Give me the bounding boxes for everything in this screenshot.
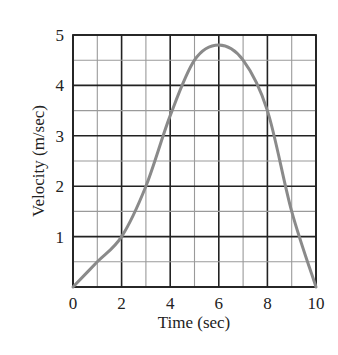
y-tick-label: 2 (56, 177, 65, 196)
y-tick-label: 4 (56, 76, 65, 95)
x-tick-label: 6 (215, 294, 224, 313)
y-axis-ticks: 12345 (56, 26, 65, 247)
y-tick-label: 3 (56, 127, 65, 146)
y-axis-label: Velocity (m/sec) (29, 105, 48, 217)
x-axis-label: Time (sec) (158, 313, 231, 332)
x-tick-label: 2 (117, 294, 126, 313)
y-tick-label: 5 (56, 26, 65, 45)
x-tick-label: 8 (263, 294, 272, 313)
x-tick-label: 0 (69, 294, 78, 313)
y-tick-label: 1 (56, 228, 65, 247)
x-tick-label: 10 (308, 294, 325, 313)
x-axis-ticks: 0246810 (69, 294, 325, 313)
x-tick-label: 4 (166, 294, 175, 313)
velocity-time-chart: 0246810 12345 Time (sec) Velocity (m/sec… (0, 0, 338, 355)
